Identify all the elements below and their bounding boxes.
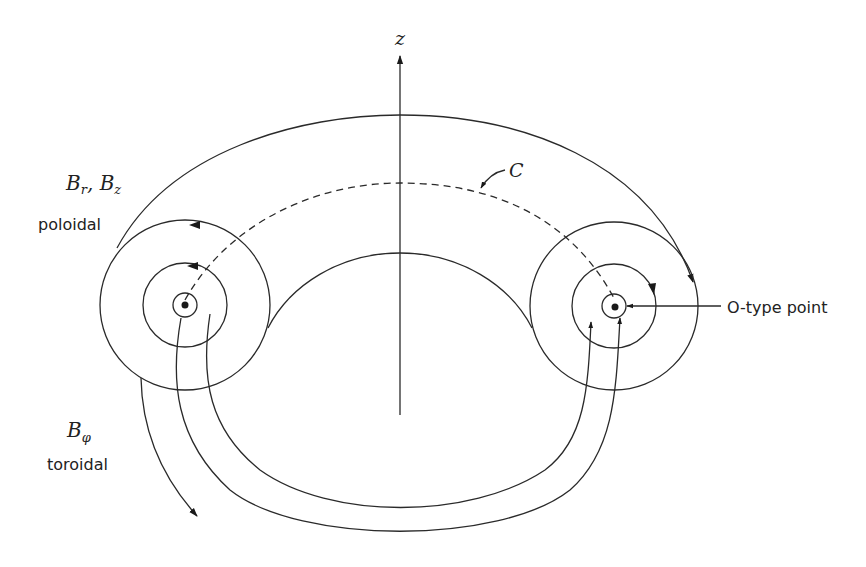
curve-c-annotation: C	[481, 159, 524, 188]
z-axis-label: z	[394, 27, 406, 49]
poloidal-label: poloidal	[38, 215, 101, 234]
o-point-label: O-type point	[727, 298, 827, 317]
arrow-left-outer	[189, 221, 200, 229]
o-point-dot-right	[612, 304, 619, 311]
toroidal-field-line-outer	[176, 318, 620, 531]
z-axis: z	[394, 27, 406, 415]
toroidal-label: toroidal	[47, 455, 108, 474]
torus-outer-boundary	[117, 115, 693, 282]
curve-c-label: C	[509, 159, 524, 181]
o-point-dot-left	[182, 302, 189, 309]
torus-field-diagram: z C O-type point Br,	[0, 0, 866, 567]
toroidal-field-line-inner	[207, 314, 591, 508]
toroidal-symbol: Bφ	[66, 418, 92, 445]
o-point-annotation: O-type point	[627, 298, 827, 317]
toroidal-direction-arrow	[141, 378, 197, 516]
arrow-right-middle	[648, 283, 656, 295]
poloidal-annotation: Br, Bz poloidal	[38, 171, 121, 234]
toroidal-annotation: Bφ toroidal	[47, 418, 108, 474]
poloidal-symbol: Br, Bz	[65, 171, 121, 197]
left-cross-section	[100, 220, 270, 390]
